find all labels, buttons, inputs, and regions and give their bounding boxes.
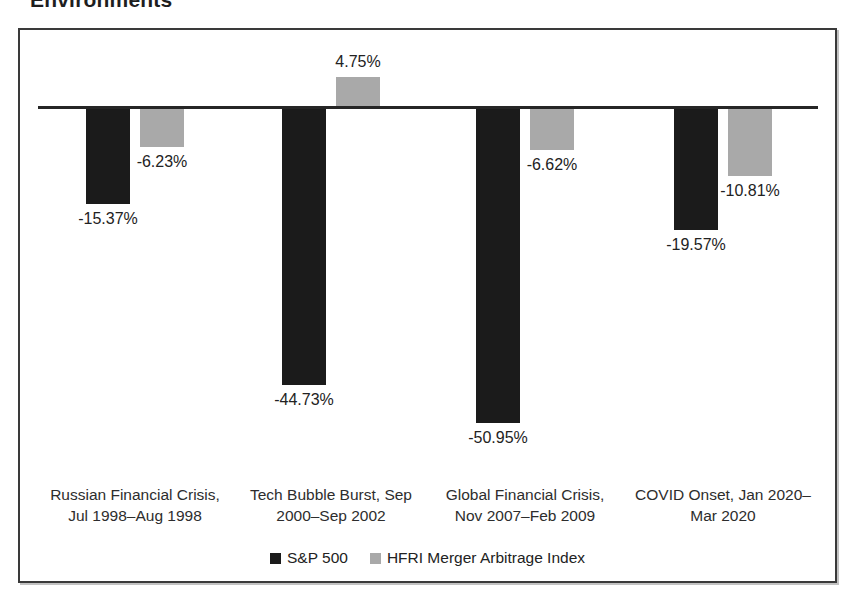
legend-item-hfri: HFRI Merger Arbitrage Index bbox=[370, 549, 585, 567]
legend-swatch-sp500 bbox=[270, 553, 281, 564]
page-title: Environments bbox=[30, 0, 172, 12]
value-label-sp500-1: -44.73% bbox=[256, 391, 352, 409]
legend-label-hfri: HFRI Merger Arbitrage Index bbox=[387, 549, 585, 567]
value-label-sp500-2: -50.95% bbox=[450, 429, 546, 447]
category-label-2: Global Financial Crisis,Nov 2007–Feb 200… bbox=[420, 484, 630, 526]
bar-hfri-2 bbox=[530, 109, 574, 150]
bar-sp500-1 bbox=[282, 109, 326, 385]
chart-legend: S&P 500 HFRI Merger Arbitrage Index bbox=[20, 549, 835, 567]
value-label-hfri-2: -6.62% bbox=[504, 156, 600, 174]
category-label-3: COVID Onset, Jan 2020–Mar 2020 bbox=[618, 484, 828, 526]
legend-swatch-hfri bbox=[370, 553, 381, 564]
value-label-hfri-3: -10.81% bbox=[702, 182, 798, 200]
category-label-0: Russian Financial Crisis,Jul 1998–Aug 19… bbox=[30, 484, 240, 526]
value-label-hfri-0: -6.23% bbox=[114, 153, 210, 171]
legend-item-sp500: S&P 500 bbox=[270, 549, 348, 567]
chart-plot-area: -15.37%-6.23%-44.73%4.75%-50.95%-6.62%-1… bbox=[18, 28, 837, 583]
value-label-sp500-0: -15.37% bbox=[60, 210, 156, 228]
value-label-sp500-3: -19.57% bbox=[648, 236, 744, 254]
category-label-1: Tech Bubble Burst, Sep2000–Sep 2002 bbox=[226, 484, 436, 526]
bar-hfri-0 bbox=[140, 109, 184, 147]
bar-hfri-3 bbox=[728, 109, 772, 176]
value-label-hfri-1: 4.75% bbox=[310, 53, 406, 71]
bar-hfri-1 bbox=[336, 77, 380, 106]
bar-sp500-3 bbox=[674, 109, 718, 230]
legend-label-sp500: S&P 500 bbox=[287, 549, 348, 567]
screenshot-root: Environments -15.37%-6.23%-44.73%4.75%-5… bbox=[0, 0, 850, 597]
